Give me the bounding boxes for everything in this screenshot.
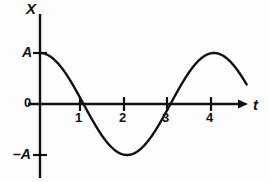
waveform-figure: X t A –A 0 1 2 3 4 bbox=[0, 0, 270, 182]
x-tick-label-2: 2 bbox=[119, 111, 126, 124]
x-tick-label-3: 3 bbox=[162, 111, 169, 124]
x-tick-label-4: 4 bbox=[206, 111, 213, 124]
x-axis-label: t bbox=[253, 97, 258, 112]
plot-canvas bbox=[0, 0, 270, 182]
x-axis-arrowhead bbox=[238, 100, 248, 109]
x-tick-label-1: 1 bbox=[75, 111, 82, 124]
y-axis-label: X bbox=[26, 1, 36, 16]
amplitude-positive-label: A bbox=[22, 45, 32, 59]
amplitude-negative-label: –A bbox=[13, 147, 31, 161]
origin-label: 0 bbox=[24, 96, 31, 109]
